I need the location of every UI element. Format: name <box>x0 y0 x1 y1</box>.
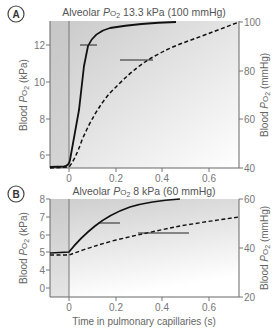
panel-b-x-axis: 0 0.2 0.4 0.6 Time in pulmonary capillar… <box>66 297 216 327</box>
panel-a-title: Alveolar PO2 13.3 kPa (100 mmHg) <box>62 6 226 19</box>
panel-a-ylabel-right: Blood PO2 (mmHg) <box>259 53 271 137</box>
panel-a-right-axis: 100 80 60 40 Blood PO2 (mmHg) <box>239 17 271 174</box>
panel-a-plot-area <box>50 21 239 168</box>
svg-text:8: 8 <box>39 114 45 125</box>
panel-a-ylabel: Blood PO2 (kPa) <box>18 59 30 131</box>
svg-text:7: 7 <box>39 212 45 223</box>
panel-b-title: Alveolar PO2 8 kPa (60 mmHg) <box>72 185 215 198</box>
panel-b-left-axis: 8 7 6 5 4 0 Blood PO2 (kPa) <box>18 194 50 294</box>
svg-text:12: 12 <box>34 40 46 51</box>
svg-text:10: 10 <box>34 77 46 88</box>
panel-a-pre-shade <box>50 21 69 168</box>
svg-text:0: 0 <box>66 173 72 184</box>
svg-text:0: 0 <box>39 283 45 294</box>
svg-text:0.2: 0.2 <box>109 302 123 313</box>
svg-text:60: 60 <box>244 114 256 125</box>
panel-b-pre-shade <box>50 199 69 297</box>
panel-a: A Alveolar PO2 13.3 kPa (100 mmHg) 12 10… <box>8 6 271 184</box>
svg-text:0.4: 0.4 <box>155 302 169 313</box>
svg-text:100: 100 <box>244 17 261 28</box>
svg-text:0.6: 0.6 <box>202 173 216 184</box>
panel-a-x-axis: 0 0.2 0.4 0.6 <box>66 168 216 184</box>
panel-b-ylabel-right: Blood PO2 (mmHg) <box>259 206 271 290</box>
panel-b-plot-area <box>50 199 239 297</box>
panel-b-right-axis: 60 40 20 Blood PO2 (mmHg) <box>239 194 271 303</box>
svg-text:40: 40 <box>244 163 256 174</box>
panel-b-ylabel: Blood PO2 (kPa) <box>18 212 30 284</box>
svg-text:20: 20 <box>244 292 256 303</box>
panel-b: B Alveolar PO2 8 kPa (60 mmHg) 8 7 6 5 4… <box>8 185 271 327</box>
panel-a-left-axis: 12 10 8 6 Blood PO2 (kPa) <box>18 40 50 161</box>
svg-text:60: 60 <box>244 194 256 205</box>
svg-text:0: 0 <box>66 302 72 313</box>
svg-text:8: 8 <box>39 194 45 205</box>
svg-text:4: 4 <box>39 265 45 276</box>
panel-a-badge: A <box>12 9 19 20</box>
svg-text:0.4: 0.4 <box>155 173 169 184</box>
svg-text:0.6: 0.6 <box>202 302 216 313</box>
panel-b-badge: B <box>12 189 19 200</box>
svg-text:6: 6 <box>39 230 45 241</box>
svg-text:80: 80 <box>244 66 256 77</box>
figure: A Alveolar PO2 13.3 kPa (100 mmHg) 12 10… <box>0 0 276 332</box>
svg-text:40: 40 <box>244 243 256 254</box>
svg-text:5: 5 <box>39 247 45 258</box>
svg-text:0.2: 0.2 <box>109 173 123 184</box>
x-axis-label: Time in pulmonary capillaries (s) <box>72 316 216 327</box>
svg-text:6: 6 <box>39 150 45 161</box>
